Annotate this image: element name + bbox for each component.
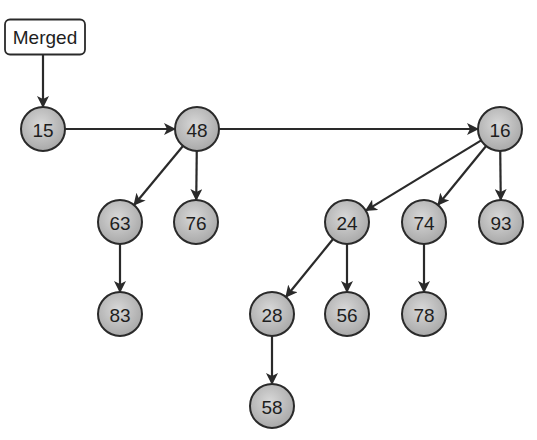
node-label: 76 [185,213,206,234]
edge-n24-n28 [286,239,333,297]
node-label: 58 [261,397,282,418]
node-76: 76 [174,200,218,244]
merged-head-pointer: Merged [5,20,85,55]
node-label: 74 [413,213,435,234]
node-label: 63 [109,213,130,234]
node-label: 83 [109,305,130,326]
node-63: 63 [98,200,142,244]
edge-n16-n93 [500,151,501,200]
node-label: 24 [336,213,358,234]
node-16: 16 [478,107,522,151]
node-58: 58 [250,384,294,428]
node-label: 78 [413,305,434,326]
edge-n48-n63 [134,146,183,205]
node-78: 78 [402,292,446,336]
node-83: 83 [98,292,142,336]
node-24: 24 [325,200,369,244]
node-48: 48 [175,107,219,151]
node-label: 93 [490,213,511,234]
node-label: 15 [32,120,53,141]
edge-n48-n76 [196,151,197,200]
node-56: 56 [325,292,369,336]
merged-label: Merged [13,27,77,48]
node-28: 28 [250,292,294,336]
node-label: 16 [489,120,510,141]
heap-diagram: Merged 15481663762474938328567858 [0,0,537,440]
node-label: 56 [336,305,357,326]
node-93: 93 [479,200,523,244]
edge-n16-n74 [438,146,486,205]
node-15: 15 [21,107,65,151]
node-label: 28 [261,305,282,326]
node-label: 48 [186,120,207,141]
node-74: 74 [402,200,446,244]
